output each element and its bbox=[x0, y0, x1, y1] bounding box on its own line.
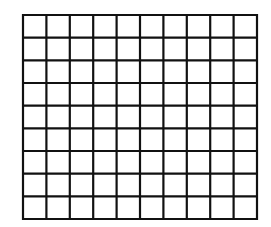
grid-diagram bbox=[0, 0, 271, 227]
square-grid bbox=[0, 0, 271, 227]
